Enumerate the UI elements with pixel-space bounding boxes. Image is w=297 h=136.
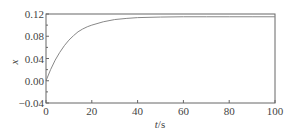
x-tick-label: 100 [267, 105, 284, 117]
plot-area [46, 14, 275, 103]
x-tick-label: 20 [86, 105, 98, 117]
x-tick-label: 60 [178, 105, 190, 117]
y-tick-label: 0.12 [25, 8, 44, 20]
x-tick-label: 80 [224, 105, 236, 117]
y-tick-label: 0.04 [25, 53, 45, 65]
x-tick-label: 0 [43, 105, 49, 117]
y-tick-label: 0.00 [25, 75, 45, 87]
y-tick-label: 0.08 [25, 30, 45, 42]
y-axis-label: x [8, 59, 20, 65]
y-axis: −0.040.000.040.080.12 [19, 8, 49, 109]
x-tick-label: 40 [132, 105, 144, 117]
series-line-x [46, 17, 275, 81]
plot-frame [46, 14, 275, 103]
line-chart: −0.040.000.040.080.12 020406080100 t/s x [0, 0, 297, 136]
y-tick-label: −0.04 [19, 97, 45, 109]
x-axis-label: t/s [155, 118, 165, 130]
